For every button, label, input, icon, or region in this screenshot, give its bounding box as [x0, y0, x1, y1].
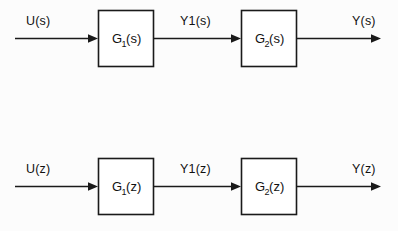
arrowhead-output-z [371, 182, 381, 191]
block-g2-s-argument: (s) [269, 31, 284, 46]
block-g1-z-argument: (z) [126, 179, 141, 194]
arrowhead-into-g2-z [231, 182, 241, 191]
block-g1-s-argument: (s) [126, 31, 141, 46]
arrowhead-into-g1-s [88, 34, 98, 43]
label-output-s: Y(s) [352, 14, 376, 28]
diagram-continuous-time: G 1 (s) G 2 (s) U(s) Y1(s) Y(s) [15, 11, 381, 67]
arrowhead-into-g1-z [88, 182, 98, 191]
block-g2-z-argument: (z) [269, 179, 284, 194]
label-input-z: U(z) [26, 162, 50, 176]
arrowhead-output-s [371, 34, 381, 43]
label-intermediate-z: Y1(z) [180, 162, 211, 176]
label-intermediate-s: Y1(s) [180, 14, 211, 28]
label-input-s: U(s) [26, 14, 50, 28]
diagram-discrete-time: G 1 (z) G 2 (z) U(z) Y1(z) Y(z) [15, 159, 381, 215]
label-output-z: Y(z) [352, 162, 376, 176]
diagram-canvas: G 1 (s) G 2 (s) U(s) Y1(s) Y(s) [0, 0, 398, 231]
arrowhead-into-g2-s [231, 34, 241, 43]
block-diagram-svg: G 1 (s) G 2 (s) U(s) Y1(s) Y(s) [0, 0, 398, 231]
